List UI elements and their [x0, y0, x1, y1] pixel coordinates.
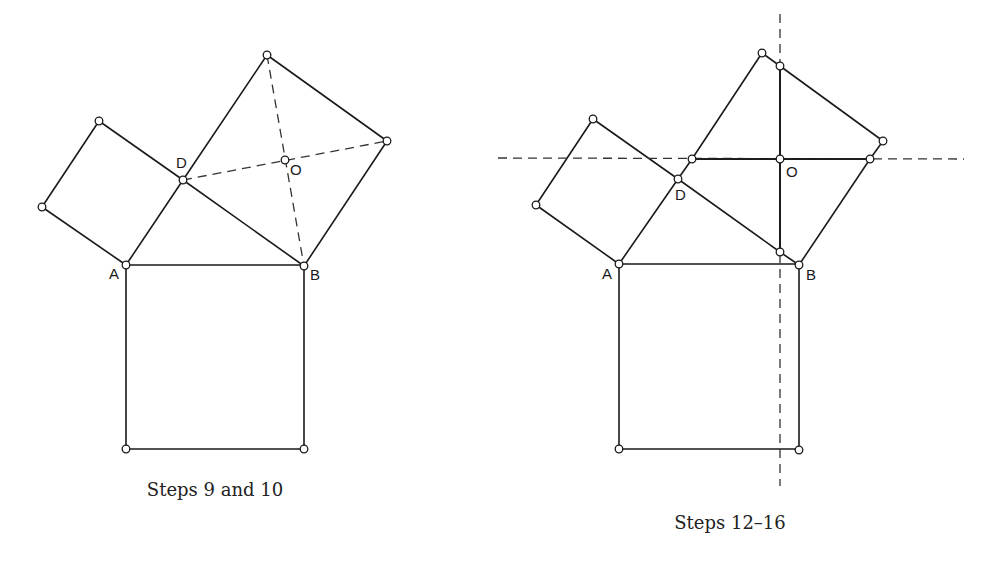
- piece-lower-left: [678, 159, 780, 252]
- hypotenuse-square-ab: [126, 265, 304, 449]
- pythagorean-dissection-diagram: A B D O Steps 9 and 10: [0, 0, 995, 568]
- point: [300, 445, 308, 453]
- small-square-ad: [42, 121, 183, 265]
- point: [383, 137, 391, 145]
- label-d: D: [675, 186, 686, 203]
- piece-upper-right: [780, 66, 883, 159]
- label-a: A: [109, 265, 119, 282]
- label-d: D: [176, 154, 187, 171]
- piece-upper-left: [692, 53, 780, 159]
- point: [776, 248, 784, 256]
- point: [122, 445, 130, 453]
- point: [532, 201, 540, 209]
- label-o: O: [786, 163, 798, 180]
- point: [38, 203, 46, 211]
- caption: Steps 9 and 10: [147, 479, 283, 500]
- point: [879, 137, 887, 145]
- label-b: B: [310, 266, 320, 283]
- point: [589, 115, 597, 123]
- small-square-ad: [536, 119, 678, 264]
- point-o: [776, 155, 784, 163]
- point-a: [615, 260, 623, 268]
- point-d: [179, 176, 187, 184]
- point: [95, 117, 103, 125]
- point: [688, 155, 696, 163]
- label-a: A: [602, 265, 612, 282]
- figure-steps-9-10: A B D O Steps 9 and 10: [38, 51, 391, 500]
- point: [758, 49, 766, 57]
- point-d: [674, 175, 682, 183]
- point: [866, 155, 874, 163]
- label-b: B: [806, 266, 816, 283]
- figure-steps-12-16: A B D O Steps 12–16: [498, 14, 964, 533]
- point: [263, 51, 271, 59]
- caption: Steps 12–16: [674, 512, 786, 533]
- point-o: [281, 156, 289, 164]
- hypotenuse-square-ab: [619, 264, 799, 449]
- point: [615, 445, 623, 453]
- point-a: [122, 261, 130, 269]
- point-b: [300, 262, 308, 270]
- point: [776, 62, 784, 70]
- point-b: [795, 261, 803, 269]
- label-o: O: [290, 161, 302, 178]
- point: [795, 446, 803, 454]
